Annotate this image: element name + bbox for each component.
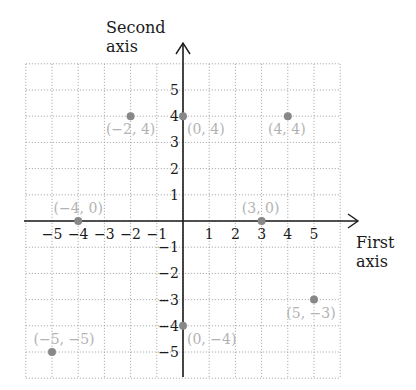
point-label: (3, 0) — [242, 200, 280, 216]
y-tick-label: 4 — [170, 108, 179, 124]
x-tick-label: 1 — [205, 226, 214, 242]
y-tick-label: −1 — [158, 239, 179, 255]
point-label: (0, 4) — [187, 121, 225, 137]
y-tick-label: −3 — [158, 292, 179, 308]
point-label: (0, −4) — [187, 331, 236, 347]
data-point — [310, 296, 318, 304]
x-tick-label: 4 — [283, 226, 292, 242]
y-tick-label: 3 — [170, 134, 179, 150]
data-point — [179, 112, 187, 120]
x-axis-title-line2: axis — [356, 252, 388, 271]
coordinate-plane: −5−4−3−2−112345−5−4−3−2−112345 First axi… — [0, 0, 416, 390]
x-tick-label: 5 — [310, 226, 319, 242]
y-axis-title-line2: axis — [106, 37, 138, 56]
point-label: (5, −3) — [286, 305, 335, 321]
x-tick-label: 2 — [231, 226, 240, 242]
point-label: (−2, 4) — [106, 121, 155, 137]
x-tick-label: −2 — [120, 226, 141, 242]
y-tick-label: −4 — [158, 318, 179, 334]
data-point — [127, 112, 135, 120]
x-tick-label: 3 — [257, 226, 266, 242]
data-point — [179, 322, 187, 330]
y-axis-title-line1: Second — [106, 18, 166, 37]
x-tick-label: −3 — [94, 226, 115, 242]
y-tick-label: 2 — [170, 161, 179, 177]
data-point — [284, 112, 292, 120]
point-label: (−5, −5) — [33, 331, 94, 347]
x-axis-title-line1: First — [356, 233, 395, 252]
y-tick-label: 1 — [170, 187, 179, 203]
data-point — [48, 348, 56, 356]
y-tick-label: −5 — [158, 344, 179, 360]
x-tick-label: −4 — [68, 226, 89, 242]
point-label: (4, 4) — [268, 121, 306, 137]
data-point — [258, 217, 266, 225]
y-tick-label: −2 — [158, 265, 179, 281]
data-point — [74, 217, 82, 225]
y-tick-label: 5 — [170, 82, 179, 98]
x-tick-label: −5 — [42, 226, 63, 242]
point-label: (−4, 0) — [54, 200, 103, 216]
